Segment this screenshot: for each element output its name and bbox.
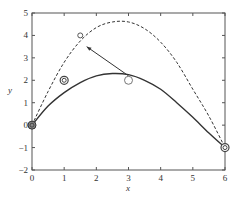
data-markers <box>28 33 229 152</box>
y-tick-label: 3 <box>24 53 29 63</box>
marker-circle-filled <box>28 121 36 129</box>
x-tick-label: 1 <box>62 173 67 183</box>
marker-small-circle <box>78 33 83 38</box>
x-tick-label: 5 <box>191 173 196 183</box>
x-tick-label: 3 <box>126 173 131 183</box>
y-axis-label: y <box>7 85 12 95</box>
x-tick-label: 6 <box>223 173 228 183</box>
chart: 0123456−2−1012345 x y <box>0 0 237 198</box>
x-tick-label: 4 <box>158 173 163 183</box>
x-axis-label: x <box>125 183 130 193</box>
arrow-annotation <box>87 47 129 76</box>
y-tick-label: −2 <box>18 165 28 175</box>
y-tick-label: 1 <box>24 98 29 108</box>
y-tick-label: 4 <box>24 30 29 40</box>
y-tick-label: −1 <box>18 143 28 153</box>
y-tick-label: 2 <box>24 75 29 85</box>
axis-ticks: 0123456−2−1012345 <box>18 8 227 183</box>
x-tick-label: 2 <box>94 173 99 183</box>
marker-double-circle <box>60 76 68 84</box>
marker-open-circle <box>125 76 133 84</box>
y-tick-label: 5 <box>24 8 29 18</box>
axes-frame <box>32 13 225 170</box>
marker-double-circle <box>221 144 229 152</box>
x-tick-label: 0 <box>30 173 35 183</box>
